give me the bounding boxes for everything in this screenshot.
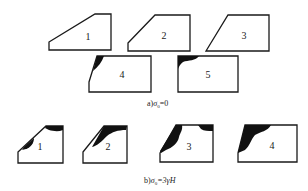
shape-a4-label: 4 (120, 69, 125, 80)
shape-a2: 2 (128, 15, 190, 51)
shape-a2-label: 2 (162, 30, 167, 41)
shape-b4-label: 4 (270, 140, 275, 151)
shape-a5: 5 (178, 56, 238, 92)
shape-b2: 2 (83, 126, 127, 163)
shape-a3-label: 3 (242, 30, 247, 41)
shape-b1-label: 1 (38, 141, 43, 152)
shape-a5-label: 5 (206, 69, 211, 80)
panel-a: 1 2 3 4 5 a)σ0=0 (49, 14, 269, 109)
shape-a1: 1 (49, 14, 111, 50)
caption-a: a)σ0=0 (147, 99, 168, 109)
shape-b1: 1 (18, 126, 63, 163)
shape-a1-label: 1 (86, 31, 91, 42)
shape-b3: 3 (160, 125, 213, 162)
panel-b: 1 2 3 4 b)σ0=3γH (18, 125, 297, 186)
shape-a4: 4 (89, 56, 151, 92)
shape-a3: 3 (206, 15, 269, 51)
shape-b4: 4 (238, 125, 297, 162)
shape-b2-label: 2 (106, 141, 111, 152)
caption-b: b)σ0=3γH (144, 176, 177, 186)
plastic-zone-diagram: 1 2 3 4 5 a)σ0=0 1 (0, 0, 308, 191)
shape-b3-label: 3 (187, 141, 192, 152)
